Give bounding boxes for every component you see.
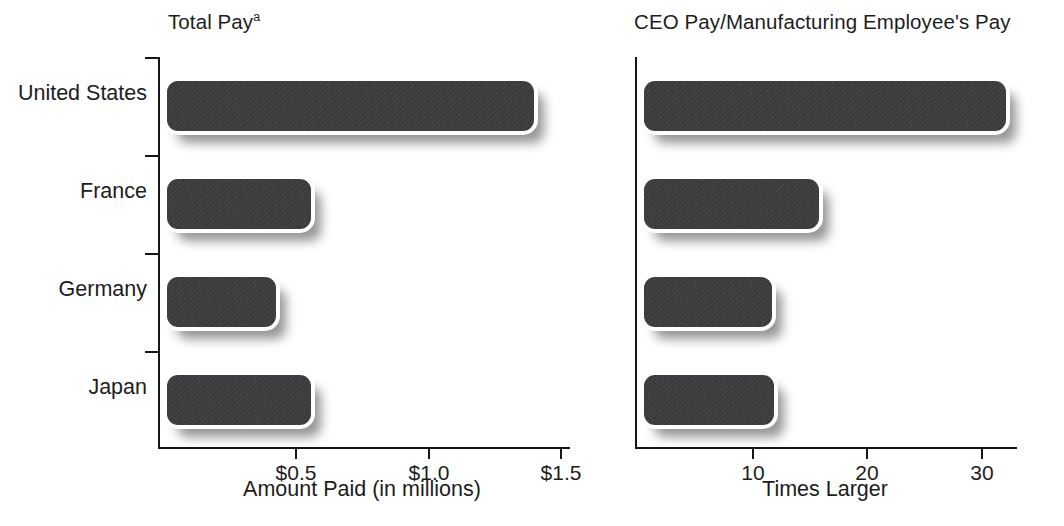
bar-france [167,179,311,229]
category-label-japan: Japan [88,375,147,400]
panel-ceo-pay-ratio: CEO Pay/Manufacturing Employee's Pay 10 … [600,0,1064,526]
bar-united-states-ratio [644,81,1006,131]
right-panel-title: CEO Pay/Manufacturing Employee's Pay [634,10,1011,34]
left-x-axis [158,447,570,449]
bar-france-ratio [644,179,819,229]
x-tick-20 [866,447,868,459]
bar-germany-ratio [644,277,772,327]
left-panel-title: Total Paya [168,10,260,34]
category-label-france: France [80,179,147,204]
figure-two-panel-bar-charts: Total Paya United States France Germany … [0,0,1064,526]
left-x-axis-title: Amount Paid (in millions) [243,477,481,502]
left-category-labels: United States France Germany Japan [0,57,147,449]
y-tick-2 [145,253,158,255]
bar-united-states [167,81,534,131]
x-tick-label-30: 30 [970,461,993,485]
left-y-axis [158,57,160,449]
bar-japan [167,375,311,425]
x-tick-1-5 [560,447,562,459]
bar-germany [167,277,276,327]
panel-total-pay: Total Paya United States France Germany … [0,0,600,526]
right-x-axis-title: Times Larger [762,477,888,502]
y-tick-0 [145,57,158,59]
right-x-axis [635,447,1017,449]
x-tick-0-5 [295,447,297,459]
right-plot-area: 10 20 30 [635,57,1005,449]
category-label-germany: Germany [59,277,147,302]
x-tick-label-1-5: $1.5 [541,461,582,485]
category-label-united-states: United States [18,81,147,106]
y-tick-1 [145,155,158,157]
left-panel-title-superscript: a [253,10,260,24]
y-tick-3 [145,351,158,353]
right-y-axis [635,57,637,449]
x-tick-30 [981,447,983,459]
x-tick-1-0 [428,447,430,459]
left-plot-area: $0.5 $1.0 $1.5 [158,57,560,449]
bar-japan-ratio [644,375,774,425]
left-panel-title-text: Total Pay [168,10,253,33]
x-tick-10 [752,447,754,459]
